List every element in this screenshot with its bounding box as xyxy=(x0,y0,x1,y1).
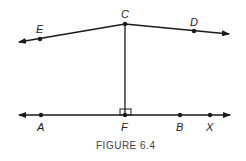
point-d xyxy=(192,29,196,33)
label-e: E xyxy=(36,23,44,35)
point-a xyxy=(39,113,43,117)
point-c xyxy=(123,22,127,26)
ray-ce xyxy=(19,24,125,42)
point-f xyxy=(123,113,127,117)
label-x: X xyxy=(205,121,214,133)
label-c: C xyxy=(121,8,129,20)
point-x xyxy=(208,113,212,117)
point-b xyxy=(178,113,182,117)
point-e xyxy=(38,37,42,41)
label-d: D xyxy=(190,16,198,28)
label-f: F xyxy=(121,121,129,133)
label-a: A xyxy=(36,121,44,133)
label-b: B xyxy=(176,121,183,133)
figure-caption: FIGURE 6.4 xyxy=(96,140,155,151)
figure-diagram: A F B X C E D FIGURE 6.4 xyxy=(0,0,246,161)
ray-cd xyxy=(125,24,229,34)
